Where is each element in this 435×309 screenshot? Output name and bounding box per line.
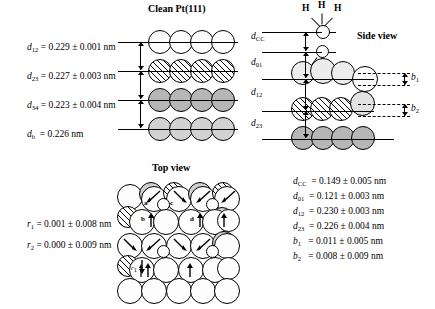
displacement-arrow <box>221 190 237 204</box>
result-b1: b1 = 0.011 ± 0.005 nm <box>293 236 383 247</box>
top-atom <box>153 209 179 235</box>
buckling-dash-b1-bottom <box>358 85 410 86</box>
result-b2: b2 = 0.008 ± 0.009 nm <box>293 251 383 262</box>
spacing-arrow-d12 <box>140 42 141 70</box>
top-atom-label-b: b <box>141 215 145 223</box>
buckling-label-b2: b2 <box>411 103 419 114</box>
top-atom-label-a: a <box>144 199 148 207</box>
side-label-d12: d12 <box>251 87 262 98</box>
spacing-label-db: db = 0.226 nm <box>27 129 83 140</box>
side-label-d01: d01 <box>251 57 262 68</box>
side-rule-layer1 <box>262 79 374 80</box>
buckling-arrow-b2 <box>404 104 405 116</box>
displacement-arrow <box>196 190 212 204</box>
side-rule-layer3 <box>262 139 394 140</box>
top-atom-label-d: d <box>190 215 194 223</box>
side-arrow-d23 <box>305 111 306 138</box>
top-atom <box>166 278 192 304</box>
displacement-arrow <box>196 238 212 252</box>
carbon-tick <box>329 32 336 33</box>
side-rule-cc-bottom <box>262 52 322 53</box>
result-d01: d01 = 0.121 ± 0.003 nm <box>293 191 384 202</box>
figure-root: Clean Pt(111) Side view Top view d12 = 0… <box>0 0 435 309</box>
c-h-bond <box>322 14 323 25</box>
side-label-dcc: dCC <box>251 31 265 42</box>
top-atom <box>190 278 216 304</box>
result-dcc: dCC = 0.149 ± 0.005 nm <box>293 176 386 187</box>
displacement-arrow-up <box>220 213 228 228</box>
result-r2: r2 = 0.000 ± 0.009 nm <box>27 240 111 251</box>
spacing-label-d12: d12 = 0.229 ± 0.001 nm <box>27 42 116 53</box>
layer-rule <box>118 42 238 43</box>
layer-rule <box>118 100 238 101</box>
side-arrow-d12 <box>305 79 306 110</box>
side-rule-layer2 <box>262 111 374 112</box>
displacement-arrow-up <box>137 263 145 278</box>
top-atom <box>141 278 167 304</box>
top-view-title: Top view <box>152 162 190 173</box>
spacing-arrow-d34 <box>140 100 141 128</box>
result-d23: d23 = 0.226 ± 0.004 nm <box>293 221 384 232</box>
spacing-label-d23: d23 = 0.227 ± 0.003 nm <box>27 71 116 82</box>
top-radial-label-r1: r1 <box>131 264 137 273</box>
displacement-arrow-up <box>186 263 194 278</box>
top-atom <box>117 278 143 304</box>
top-atom-label-c: c <box>170 199 173 207</box>
top-atom <box>217 257 240 280</box>
clean-pt111-title: Clean Pt(111) <box>148 3 206 14</box>
displacement-arrow <box>122 238 138 252</box>
spacing-arrow-d23 <box>140 71 141 99</box>
layer-rule <box>118 129 238 130</box>
side-label-d23: d23 <box>251 118 262 129</box>
hydrogen-label: H <box>334 3 341 13</box>
hydrogen-label: H <box>302 3 309 13</box>
displacement-arrow-up <box>144 263 152 278</box>
buckling-dash-b2-bottom <box>358 116 410 117</box>
displacement-arrow-up <box>147 213 155 228</box>
displacement-arrow-up <box>196 213 204 228</box>
layer-rule <box>118 71 238 72</box>
top-atom <box>214 278 240 304</box>
result-d12: d12 = 0.230 ± 0.003 nm <box>293 206 384 217</box>
displacement-arrow <box>172 238 188 252</box>
result-r1: r1 = 0.001 ± 0.008 nm <box>27 219 111 230</box>
side-arrow-dcc <box>305 32 306 51</box>
side-arrow-d01 <box>305 52 306 78</box>
displacement-arrow <box>146 190 162 204</box>
side-rule-cc-top <box>262 32 322 33</box>
displacement-arrow <box>146 238 162 252</box>
carbon-tick <box>329 52 336 53</box>
spacing-label-d34: d34 = 0.223 ± 0.004 nm <box>27 100 116 111</box>
displacement-arrow <box>172 190 188 204</box>
buckling-arrow-b1 <box>404 73 405 85</box>
hydrogen-label: H <box>318 0 325 10</box>
side-view-title: Side view <box>357 30 397 41</box>
buckling-label-b1: b1 <box>411 72 419 83</box>
